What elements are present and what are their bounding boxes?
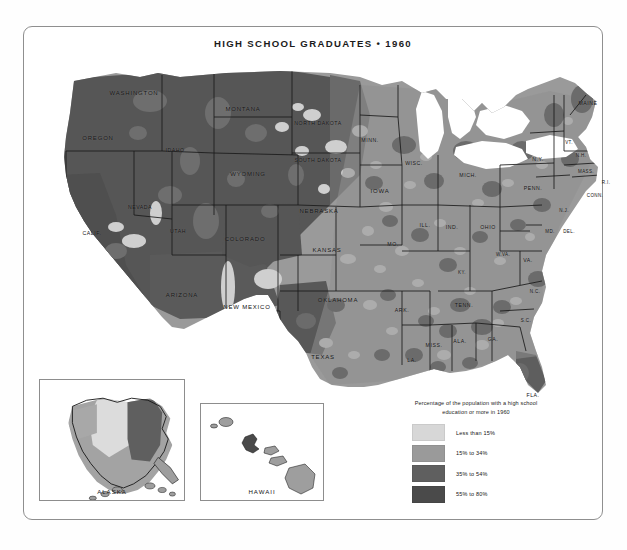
- map-legend: Percentage of the population with a high…: [376, 399, 576, 506]
- legend-caption-line-2: education or more in 1960: [442, 409, 510, 415]
- legend-swatch: [412, 445, 445, 462]
- inset-alaska-label: ALASKA: [40, 488, 184, 495]
- legend-swatch: [412, 465, 445, 482]
- legend-row: 55% to 80%: [412, 486, 576, 503]
- legend-row: Less than 15%: [412, 424, 576, 441]
- state-label-r-i: R.I.: [602, 180, 611, 185]
- legend-row: 15% to 34%: [412, 445, 576, 462]
- map-frame: HIGH SCHOOL GRADUATES • 1960: [23, 26, 603, 520]
- legend-label: 35% to 54%: [456, 471, 488, 477]
- map-page: HIGH SCHOOL GRADUATES • 1960: [0, 0, 627, 550]
- legend-caption-line-1: Percentage of the population with a high…: [415, 400, 538, 406]
- legend-caption: Percentage of the population with a high…: [376, 399, 576, 417]
- choropleth-map[interactable]: WASHINGTONOREGONIDAHOMONTANAWYOMINGNEVAD…: [30, 55, 598, 395]
- legend-rows: Less than 15%15% to 34%35% to 54%55% to …: [376, 424, 576, 503]
- legend-swatch: [412, 486, 445, 503]
- legend-label: 55% to 80%: [456, 491, 488, 497]
- inset-hawaii-label: HAWAII: [201, 488, 323, 495]
- legend-row: 35% to 54%: [412, 465, 576, 482]
- page-title: HIGH SCHOOL GRADUATES • 1960: [24, 38, 602, 49]
- inset-hawaii[interactable]: HAWAII: [200, 403, 324, 501]
- legend-swatch: [412, 424, 445, 441]
- legend-label: Less than 15%: [456, 430, 495, 436]
- legend-label: 15% to 34%: [456, 450, 488, 456]
- inset-alaska[interactable]: ALASKA: [39, 379, 185, 501]
